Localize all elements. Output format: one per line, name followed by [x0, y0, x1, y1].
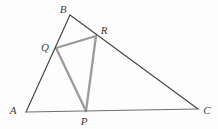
vertex-label-Q: Q [41, 41, 49, 53]
edge-RP [86, 36, 96, 111]
triangle-diagram: A B C P Q R [0, 0, 218, 129]
vertex-label-C: C [203, 104, 211, 116]
vertex-label-P: P [80, 115, 88, 127]
vertex-label-A: A [9, 104, 17, 116]
edge-AC [26, 109, 198, 112]
edge-PQ [56, 48, 86, 111]
vertex-label-B: B [60, 3, 67, 15]
geometry-figure: A B C P Q R [0, 0, 218, 129]
edge-QR [56, 36, 96, 48]
vertex-label-R: R [100, 24, 108, 36]
